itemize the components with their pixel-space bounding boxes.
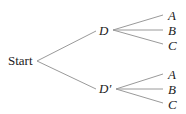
node-d-a: A — [168, 9, 176, 22]
node-d-c: C — [168, 39, 177, 52]
edge-dprime-c — [116, 89, 163, 103]
edge-start-dprime — [37, 61, 96, 89]
node-d-prime: D′ — [99, 82, 111, 95]
edge-start-d — [37, 31, 96, 61]
node-dprime-b: B — [168, 83, 176, 96]
edge-dprime-a — [116, 74, 163, 89]
node-d: D — [99, 24, 108, 37]
node-dprime-c: C — [168, 98, 177, 111]
edge-d-c — [113, 30, 163, 44]
tree-diagram: Start D D′ A B C A B C — [0, 0, 186, 114]
node-start: Start — [8, 54, 33, 67]
node-d-b: B — [168, 24, 176, 37]
node-dprime-a: A — [168, 68, 176, 81]
edge-d-a — [113, 15, 163, 30]
